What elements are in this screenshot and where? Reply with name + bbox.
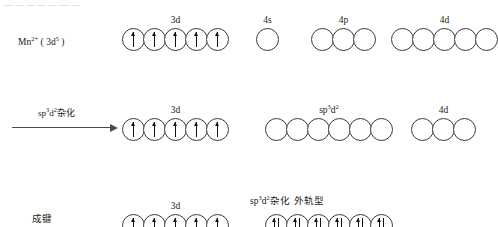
orbital-group-label-3d: 3d: [122, 200, 229, 212]
spin-up-arrow: [215, 32, 220, 47]
orbital-group-label-3d: 3d: [122, 104, 229, 116]
orbital[interactable]: [412, 28, 435, 51]
orbital[interactable]: [453, 118, 476, 141]
orbital-group-4d: 4d: [411, 118, 476, 141]
spin-up-arrow: [377, 218, 381, 227]
orbital[interactable]: [122, 214, 145, 227]
hybridization-arrow: sp3d2杂化: [12, 116, 120, 136]
orbital-group-sp3d2-bonded: [265, 214, 393, 227]
spin-up-arrow: [173, 218, 178, 227]
clipped-header-text: — — — — — — —: [4, 0, 80, 7]
orbital[interactable]: [370, 214, 393, 227]
spin-up-arrow: [152, 218, 157, 227]
row-3-left-label: 成键: [32, 213, 52, 225]
orbital[interactable]: [164, 118, 187, 141]
orbital[interactable]: [256, 28, 279, 51]
orbital-group-4p: 4p: [311, 28, 376, 51]
orbital[interactable]: [143, 118, 166, 141]
orbital[interactable]: [143, 28, 166, 51]
orbital-group-label-3d: 3d: [122, 14, 229, 26]
orbital[interactable]: [164, 214, 187, 227]
spin-up-arrow: [173, 32, 178, 47]
spin-up-arrow: [194, 122, 199, 137]
row-3-note: sp3d2杂化 外轨型: [250, 195, 324, 207]
spin-up-arrow: [152, 122, 157, 137]
orbital[interactable]: [433, 28, 456, 51]
spin-up-arrow: [173, 122, 178, 137]
orbital-group-4s: 4s: [256, 28, 279, 51]
orbital[interactable]: [432, 118, 455, 141]
orbital-group-label-sp3d2: sp3d2: [265, 104, 393, 116]
orbital[interactable]: [370, 118, 393, 141]
row-1-left-label: Mn2+ ( 3d5 ): [18, 36, 64, 48]
orbital[interactable]: [307, 118, 330, 141]
orbital[interactable]: [185, 214, 208, 227]
orbital[interactable]: [143, 214, 166, 227]
spin-down-arrow: [298, 218, 302, 227]
spin-up-arrow: [215, 218, 220, 227]
spin-up-arrow: [314, 218, 318, 227]
orbital[interactable]: [332, 28, 355, 51]
spin-up-arrow: [131, 122, 136, 137]
orbital-group-3d: 3d: [122, 118, 229, 141]
orbital[interactable]: [206, 214, 229, 227]
orbital[interactable]: [206, 28, 229, 51]
orbital[interactable]: [265, 118, 288, 141]
orbital[interactable]: [349, 214, 372, 227]
orbital-group-label-4p: 4p: [311, 14, 376, 26]
orbital[interactable]: [454, 28, 477, 51]
orbital-group-label-4s: 4s: [256, 14, 279, 26]
orbital[interactable]: [164, 28, 187, 51]
orbital-group-sp3d2: sp3d2: [265, 118, 393, 141]
spin-up-arrow: [272, 218, 276, 227]
spin-down-arrow: [340, 218, 344, 227]
spin-down-arrow: [277, 218, 281, 227]
spin-down-arrow: [382, 218, 386, 227]
orbital-group-label-4d: 4d: [391, 14, 498, 26]
orbital[interactable]: [122, 118, 145, 141]
spin-up-arrow: [131, 218, 136, 227]
spin-up-arrow: [194, 32, 199, 47]
spin-down-arrow: [319, 218, 323, 227]
orbital[interactable]: [353, 28, 376, 51]
spin-up-arrow: [215, 122, 220, 137]
orbital[interactable]: [286, 118, 309, 141]
orbital-group-label-4d: 4d: [411, 104, 476, 116]
spin-up-arrow: [356, 218, 360, 227]
spin-up-arrow: [152, 32, 157, 47]
orbital[interactable]: [349, 118, 372, 141]
orbital[interactable]: [286, 214, 309, 227]
spin-up-arrow: [293, 218, 297, 227]
orbital[interactable]: [265, 214, 288, 227]
orbital[interactable]: [206, 118, 229, 141]
hybridization-arrow-label: sp3d2杂化: [38, 106, 75, 119]
orbital[interactable]: [411, 118, 434, 141]
orbital[interactable]: [122, 28, 145, 51]
orbital[interactable]: [391, 28, 414, 51]
orbital-group-3d: 3d: [122, 214, 229, 227]
orbital[interactable]: [328, 118, 351, 141]
orbital-group-3d: 3d: [122, 28, 229, 51]
spin-down-arrow: [361, 218, 365, 227]
orbital[interactable]: [185, 28, 208, 51]
orbital[interactable]: [328, 214, 351, 227]
spin-up-arrow: [335, 218, 339, 227]
arrow-head-icon: [110, 124, 118, 132]
orbital[interactable]: [307, 214, 330, 227]
orbital[interactable]: [311, 28, 334, 51]
orbital-group-4d: 4d: [391, 28, 498, 51]
spin-up-arrow: [194, 218, 199, 227]
orbital[interactable]: [185, 118, 208, 141]
arrow-line: [12, 127, 112, 128]
orbital[interactable]: [475, 28, 498, 51]
spin-up-arrow: [131, 32, 136, 47]
